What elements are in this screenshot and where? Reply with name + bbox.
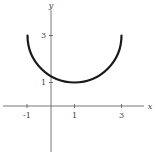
y-tick-label: 3 [41, 31, 46, 40]
y-tick-label: 1 [41, 78, 46, 87]
chart: -1 1 3 1 3 x y [0, 0, 157, 153]
x-tick-label: -1 [23, 111, 31, 120]
x-tick-label: 1 [72, 111, 77, 120]
semicircle-curve [28, 36, 122, 83]
x-axis-label: x [148, 102, 153, 111]
x-tick-label: 3 [119, 111, 124, 120]
y-axis-label: y [48, 1, 54, 10]
